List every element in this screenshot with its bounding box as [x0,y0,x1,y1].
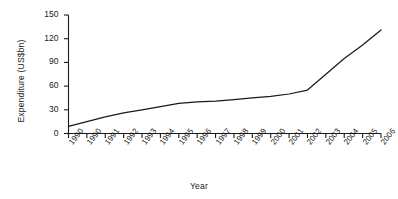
y-tick-label: 0 [25,128,59,138]
y-axis-ticks [64,15,69,134]
y-tick-label: 30 [25,104,59,114]
plot-canvas [0,0,398,199]
y-tick-label: 120 [25,33,59,43]
x-axis-label: Year [0,181,398,191]
line-chart-figure: Expenditure (US$bn) Year 0306090120150 1… [0,0,398,199]
y-tick-label: 150 [25,9,59,19]
expenditure-line-series [69,30,382,126]
y-tick-label: 90 [25,56,59,66]
y-tick-label: 60 [25,80,59,90]
